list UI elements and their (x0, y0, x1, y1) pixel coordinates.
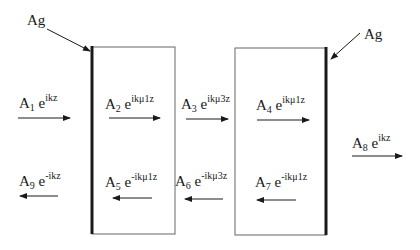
ag-pointer-right (331, 33, 360, 59)
slab-1 (92, 46, 175, 234)
ag-label-right: Ag (364, 27, 382, 42)
wave-label-A8: A8 eikz (352, 136, 390, 151)
wave-label-A7: A7 e-ikμ1z (255, 175, 307, 190)
wave-label-A2: A2 eikμ1z (105, 97, 154, 112)
diagram-canvas: Ag Ag A1 eikz A2 eikμ1z A3 eikμ3z A4 eik… (0, 0, 420, 250)
wave-label-A1: A1 eikz (19, 96, 57, 111)
wave-label-A4: A4 eikμ1z (256, 98, 305, 113)
slab-2 (235, 47, 326, 235)
diagram-graphics (0, 0, 420, 250)
wave-label-A9: A9 e-ikz (19, 174, 61, 189)
wave-label-A6: A6 e-ikμ3z (175, 174, 227, 189)
wave-label-A5: A5 e-ikμ1z (105, 175, 157, 190)
ag-label-left: Ag (27, 13, 45, 28)
ag-pointer-left (47, 29, 90, 51)
wave-label-A3: A3 eikμ3z (181, 97, 230, 112)
